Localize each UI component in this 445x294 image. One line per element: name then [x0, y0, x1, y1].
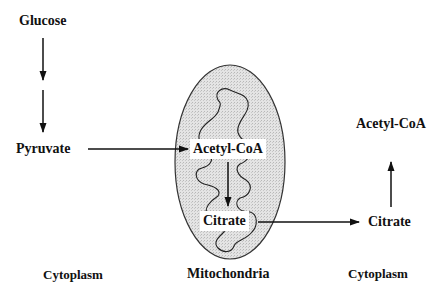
- node-citrate-cytoplasm: Citrate: [368, 214, 411, 230]
- node-acetyl-coa-cytoplasm: Acetyl-CoA: [356, 116, 426, 132]
- node-citrate-mitochondria: Citrate: [200, 211, 249, 231]
- region-label-cytoplasm-right: Cytoplasm: [348, 266, 408, 282]
- region-label-cytoplasm-left: Cytoplasm: [43, 267, 103, 283]
- node-acetyl-coa-mitochondria: Acetyl-CoA: [190, 139, 266, 159]
- node-glucose: Glucose: [19, 13, 66, 29]
- region-label-mitochondria: Mitochondria: [187, 266, 269, 282]
- node-pyruvate: Pyruvate: [16, 141, 70, 157]
